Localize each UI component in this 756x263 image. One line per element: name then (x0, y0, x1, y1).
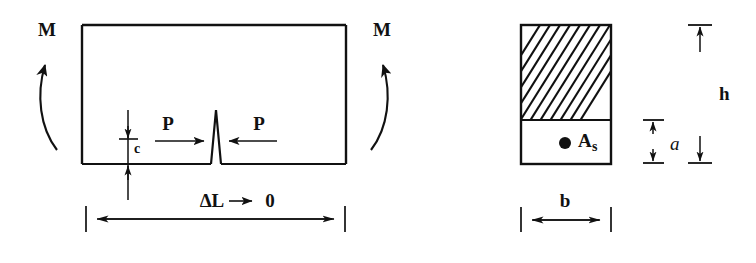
rebar-dot-icon (559, 137, 571, 149)
steel-area-subscript: s (592, 139, 598, 154)
depth-h-label: h (719, 83, 730, 104)
engineering-figure: M M P P c (0, 0, 756, 263)
crack-depth-dimension: c (119, 110, 140, 200)
compression-zone-hatch (473, 17, 645, 132)
force-right-label: P (253, 113, 265, 134)
depth-a-label: a (670, 133, 680, 154)
cross-section-group: A s a h b (473, 17, 730, 232)
figure-canvas: M M P P c (0, 0, 756, 263)
span-dimension-group: ΔL 0 (86, 190, 345, 232)
width-b-dimension: b (521, 190, 611, 232)
width-b-label: b (560, 190, 571, 211)
moment-right-label: M (373, 19, 391, 40)
moment-left-label: M (38, 19, 56, 40)
span-limit-label: 0 (265, 190, 275, 211)
force-left-label: P (162, 113, 174, 134)
span-delta-label: ΔL (200, 190, 225, 211)
moment-right-group: M (371, 19, 391, 150)
force-right-group: P (229, 113, 277, 141)
curved-arrow-clockwise-icon (371, 65, 388, 150)
moment-left-group: M (38, 19, 57, 150)
curved-arrow-counterclockwise-icon (40, 65, 57, 150)
depth-h-dimension: h (688, 25, 730, 163)
force-left-group: P (155, 113, 204, 141)
crack-notch (211, 110, 221, 164)
depth-a-dimension: a (643, 120, 680, 163)
steel-area-label: A (578, 130, 592, 151)
crack-depth-label: c (134, 141, 140, 156)
beam-elevation-group: M M P P c (38, 19, 391, 232)
